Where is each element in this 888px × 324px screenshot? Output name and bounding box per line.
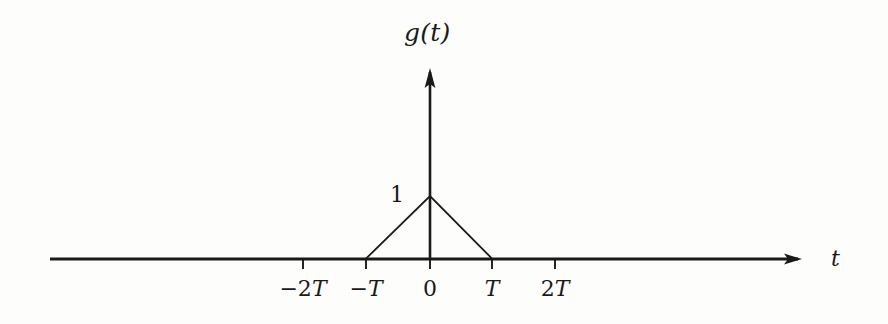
tick-label-minus-T-text: −T [349, 276, 382, 301]
plot-svg [0, 0, 888, 324]
tick-label-T-text: T [485, 276, 500, 301]
tick-label-2T-text: 2T [541, 276, 570, 301]
x-axis-ticks [303, 259, 555, 269]
tick-label-2T: 2T [541, 278, 570, 300]
peak-amplitude-label: 1 [390, 184, 404, 206]
tick-label-zero: 0 [423, 278, 437, 300]
tick-label-minus-2T: −2T [279, 278, 326, 300]
tick-label-T: T [485, 278, 500, 300]
x-axis-label: t [831, 248, 840, 270]
y-axis-label: g(t) [404, 20, 450, 45]
figure-canvas: g(t) 1 t −2T −T 0 T 2T [0, 0, 888, 324]
tick-label-minus-2T-text: −2T [279, 276, 326, 301]
tick-label-minus-T: −T [349, 278, 382, 300]
